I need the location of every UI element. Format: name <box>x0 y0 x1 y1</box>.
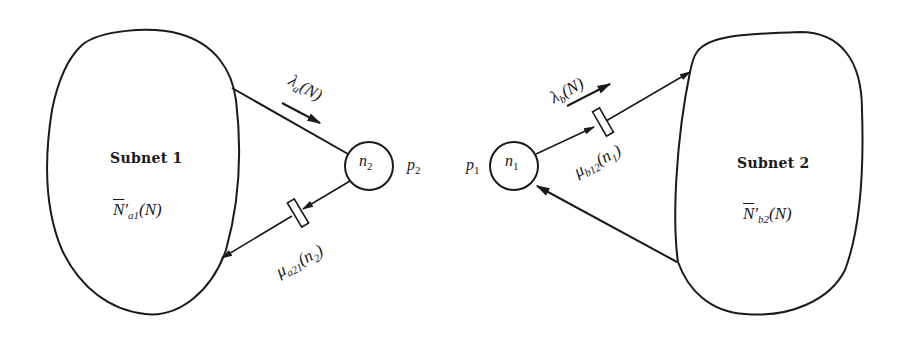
subnet1-title: Subnet 1 <box>110 150 183 166</box>
node-subscript: 1 <box>513 160 519 172</box>
node-symbol: n <box>359 152 367 169</box>
node-n2-label: n2 <box>359 152 373 170</box>
station-symbol: p <box>466 156 474 173</box>
subnet1-population: N′a1(N) <box>113 200 162 220</box>
server-mu-a21 <box>287 199 308 227</box>
edge-subnet1-to-n2 <box>232 88 348 154</box>
node-n1-label: n1 <box>505 152 519 170</box>
station-symbol: p <box>407 156 415 173</box>
station-subscript: 1 <box>474 164 480 176</box>
subnet2-boundary <box>675 32 862 315</box>
server-mu-b12 <box>593 108 614 136</box>
subnet2-title: Subnet 2 <box>737 155 810 171</box>
population-arg: (N) <box>769 204 792 223</box>
subnet1-boundary <box>47 30 239 314</box>
population-symbol: N <box>113 200 124 219</box>
population-arg: (N) <box>139 200 162 219</box>
station-p2-label: p2 <box>407 156 421 174</box>
edge-subnet2-to-n1 <box>537 186 677 262</box>
subnet2-population: N′b2(N) <box>743 204 792 224</box>
station-subscript: 2 <box>415 164 421 176</box>
population-symbol: N <box>743 204 754 223</box>
population-subscript: a1 <box>128 209 139 221</box>
edge-n1-to-subnet2-a <box>536 127 594 154</box>
edge-n2-to-subnet1-a <box>303 181 350 209</box>
station-p1-label: p1 <box>466 156 480 174</box>
node-symbol: n <box>505 152 513 169</box>
population-subscript: b2 <box>758 213 769 225</box>
node-subscript: 2 <box>367 160 373 172</box>
edge-n1-to-subnet2-b <box>606 72 690 121</box>
